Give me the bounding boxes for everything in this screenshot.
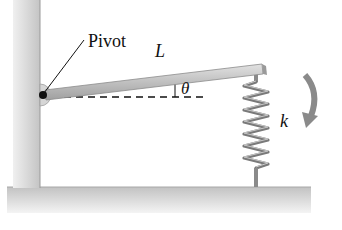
ground — [7, 187, 311, 213]
rod — [45, 64, 267, 100]
angle-label: θ — [181, 79, 189, 98]
pivot-label: Pivot — [88, 31, 126, 51]
rod-spring-diagram: Pivot L θ k — [0, 0, 342, 230]
length-label: L — [154, 41, 165, 61]
pivot-leader-line — [44, 40, 84, 93]
clockwise-rotation-arrow-icon — [302, 75, 318, 128]
pivot-point — [39, 91, 47, 99]
spring — [244, 70, 268, 187]
wall — [13, 0, 40, 188]
spring-constant-label: k — [280, 111, 289, 131]
